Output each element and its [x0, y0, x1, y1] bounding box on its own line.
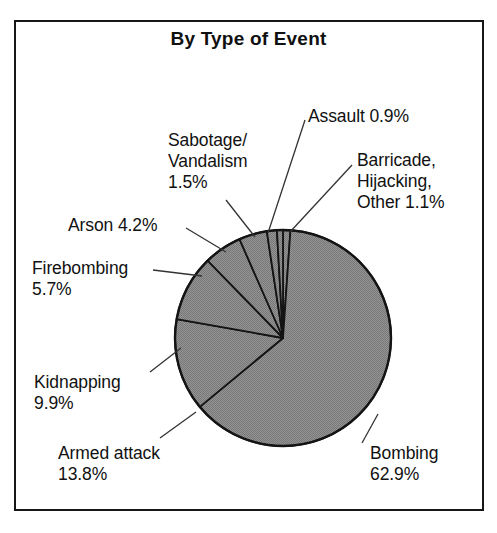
pie-label-kidnapping: Kidnapping 9.9%: [34, 372, 121, 414]
leader-line-barricade: [290, 165, 352, 232]
leader-line-sabotage: [226, 200, 255, 237]
leader-line-bombing: [362, 414, 378, 443]
pie-label-assault: Assault 0.9%: [308, 106, 409, 127]
pie-label-armed-attack: Armed attack 13.8%: [58, 443, 160, 485]
pie-label-sabotage: Sabotage/ Vandalism 1.5%: [168, 130, 248, 194]
pie-slices-group: [175, 230, 391, 446]
pie-label-barricade: Barricade, Hijacking, Other 1.1%: [357, 150, 445, 214]
pie-label-bombing: Bombing 62.9%: [370, 443, 438, 485]
leader-line-arson: [186, 228, 226, 252]
pie-label-arson: Arson 4.2%: [68, 215, 157, 236]
leader-line-armed-attack: [160, 412, 196, 438]
leader-line-assault: [268, 120, 305, 233]
pie-label-firebombing: Firebombing 5.7%: [32, 258, 128, 300]
chart-page: By Type of Event: [0, 0, 497, 533]
leader-line-firebombing: [153, 270, 202, 276]
